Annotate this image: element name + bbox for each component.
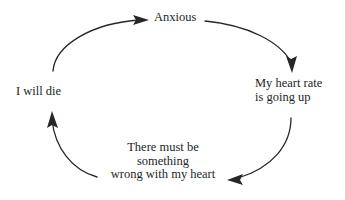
arrow-heart-rate-to-wrong-heart-path	[238, 118, 291, 178]
node-wrong-heart-line-2: something	[101, 155, 225, 169]
arrowhead-to-wrong-heart-icon	[227, 174, 243, 185]
anxiety-cycle-diagram: Anxious My heart rate is going up There …	[0, 0, 345, 200]
node-heart-rate: My heart rate is going up	[255, 77, 322, 104]
node-wrong-heart-line-3: wrong with my heart	[101, 168, 225, 182]
arrow-anxious-to-heart-rate-path	[205, 21, 291, 62]
node-anxious-line-1: Anxious	[154, 11, 196, 25]
node-wrong-heart-line-1: There must be	[101, 141, 225, 155]
node-anxious: Anxious	[154, 11, 196, 25]
arrowhead-to-heart-rate-icon	[286, 56, 297, 73]
node-i-will-die: I will die	[16, 85, 61, 99]
arrow-wrong-heart-to-i-will-die-path	[52, 120, 97, 177]
node-heart-rate-line-2: is going up	[255, 91, 322, 105]
node-heart-rate-line-1: My heart rate	[255, 77, 322, 91]
node-i-will-die-line-1: I will die	[16, 85, 61, 99]
node-wrong-heart: There must be something wrong with my he…	[101, 141, 225, 182]
arrow-i-will-die-to-anxious-path	[53, 20, 140, 71]
